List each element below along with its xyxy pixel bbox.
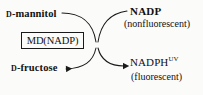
substrate-prefix: D: [6, 10, 12, 19]
cofactor-nadph-name: NADPH: [130, 56, 168, 68]
cofactor-nadph-fluorescence-note: (fluorescent): [131, 72, 182, 83]
product-name: -fructose: [17, 62, 58, 73]
reaction-scheme-diagram: D-mannitol D-fructose NADP (nonfluoresce…: [0, 0, 203, 95]
cofactor-nadph-superscript-uv: UV: [168, 55, 178, 62]
substrate-name: -mannitol: [12, 8, 57, 19]
enzyme-box-label: MD(NADP): [22, 33, 83, 48]
product-prefix: D: [11, 64, 17, 73]
nadph-outflow-arrow: [98, 48, 124, 66]
substrate-label-d-mannitol: D-mannitol: [6, 8, 57, 19]
cofactor-label-nadph: NADPHUV: [130, 57, 179, 69]
fructose-outflow-arrow: [66, 48, 96, 69]
cofactor-label-nadp: NADP: [130, 6, 161, 18]
enzyme-box: MD(NADP): [21, 32, 84, 49]
nadp-inflow-curve: [98, 11, 127, 42]
product-label-d-fructose: D-fructose: [11, 62, 57, 73]
cofactor-nadp-fluorescence-note: (nonfluorescent): [124, 19, 190, 30]
